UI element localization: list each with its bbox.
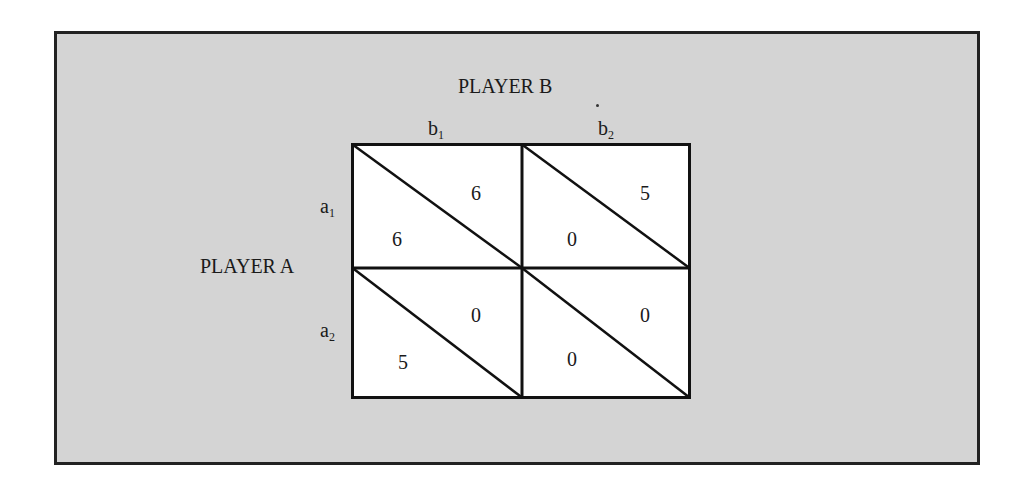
strategy-a1-label: a1 [320, 196, 335, 219]
cell-a2-b2-a-payoff: 0 [567, 349, 577, 369]
cell-a2-b1-b-payoff: 0 [471, 305, 481, 325]
cell-a1-b2-b-payoff: 5 [640, 183, 650, 203]
payoff-matrix: 6 6 5 0 0 5 0 0 [351, 143, 691, 399]
strategy-a2-label: a2 [320, 320, 335, 343]
player-a-label: PLAYER A [200, 256, 294, 276]
cell-a1-b1-b-payoff: 6 [471, 183, 481, 203]
cell-a2-b2-b-payoff: 0 [640, 305, 650, 325]
cell-a1-b1-a-payoff: 6 [392, 229, 402, 249]
strategy-b2-label: b2 [598, 118, 614, 141]
stray-dot [596, 104, 599, 107]
player-b-label: PLAYER B [458, 76, 552, 96]
cell-a1-b2-a-payoff: 0 [567, 229, 577, 249]
strategy-b1-label: b1 [428, 118, 444, 141]
cell-a2-b1-a-payoff: 5 [398, 352, 408, 372]
